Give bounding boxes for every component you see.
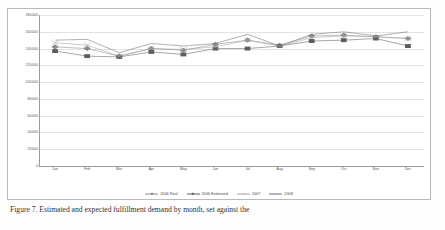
x-axis-tick-label: Mar [116, 167, 122, 171]
legend-label: 2006 Real [160, 192, 177, 196]
x-axis-tick-label: Sep [308, 167, 315, 171]
series-line [55, 38, 408, 56]
y-axis-tick-label: 20000 [28, 147, 39, 151]
x-axis-tick-label: May [180, 167, 187, 171]
y-axis-tick-label: 120000 [25, 63, 38, 67]
data-point-marker [148, 50, 154, 54]
series-lines [39, 15, 424, 166]
legend-swatch-icon: × [237, 192, 250, 196]
legend-item-3[interactable]: ×2007 [237, 192, 260, 196]
chart-legend: 2006 Real2006 Estimated×20072008 [8, 192, 430, 196]
data-point-marker [309, 39, 315, 43]
legend-swatch-icon [145, 192, 158, 196]
legend-item-4[interactable]: 2008 [269, 192, 292, 196]
x-axis-tick-label: Jul [245, 167, 250, 171]
legend-swatch-icon [187, 192, 200, 196]
x-axis-tick-label: Jan [52, 167, 58, 171]
series-3 [52, 34, 412, 59]
y-axis-tick-label: 60000 [28, 114, 39, 118]
data-point-marker [245, 47, 251, 51]
data-point-marker [405, 44, 411, 48]
y-axis-tick-label: 100000 [25, 80, 38, 84]
data-point-marker [180, 48, 187, 53]
data-point-marker [51, 44, 58, 49]
data-point-marker [340, 33, 347, 38]
y-axis-tick-label: 140000 [25, 47, 38, 51]
data-point-marker [341, 38, 347, 42]
x-axis-tick-label: Oct [341, 167, 347, 171]
x-axis-tick-label: Jun [212, 167, 218, 171]
legend-item-2[interactable]: 2006 Estimated [187, 192, 228, 196]
y-axis-tick-label: 180000 [25, 13, 38, 17]
x-axis-tick-label: Dec [405, 167, 412, 171]
figure-container: 1800001600001400001200001000008000060000… [0, 0, 445, 230]
legend-label: 2008 [284, 192, 292, 196]
x-axis-tick-label: Feb [84, 167, 90, 171]
y-axis-tick-label: 0 [36, 164, 38, 168]
plot-area [39, 15, 424, 166]
legend-swatch-icon [269, 192, 282, 196]
series-2 [52, 37, 411, 59]
series-line [55, 35, 408, 56]
data-point-marker [180, 52, 186, 56]
y-axis-labels: 1800001600001400001200001000008000060000… [10, 9, 38, 199]
legend-item-1[interactable]: 2006 Real [145, 192, 177, 196]
x-axis-tick-label: Apr [148, 167, 154, 171]
figure-caption: Figure 7. Estimated and expected fulfill… [10, 204, 435, 230]
chart-plot-wrapper: 1800001600001400001200001000008000060000… [8, 9, 430, 199]
x-axis-tick-label: Nov [373, 167, 380, 171]
x-axis-labels: JanFebMarAprMayJunJulAugSepOctNovDec [39, 167, 424, 179]
x-axis-tick-label: Aug [276, 167, 283, 171]
data-point-marker [52, 49, 58, 53]
chart-frame: 1800001600001400001200001000008000060000… [7, 8, 431, 200]
y-axis-tick-label: 40000 [28, 130, 39, 134]
legend-label: 2006 Estimated [202, 192, 228, 196]
y-axis-tick-label: 160000 [25, 30, 38, 34]
y-axis-tick-label: 80000 [28, 97, 39, 101]
data-point-marker [84, 54, 90, 58]
legend-label: 2007 [252, 192, 260, 196]
